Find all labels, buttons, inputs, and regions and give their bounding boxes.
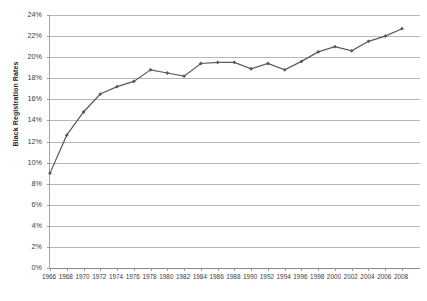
x-tickmark-1986: [218, 268, 219, 271]
y-tick-label-24: 24%: [8, 11, 42, 19]
x-tickmark-1992: [268, 268, 269, 271]
y-tick-label-18: 18%: [8, 74, 42, 82]
x-tickmark-1990: [251, 268, 252, 271]
data-point-2008: [400, 27, 404, 31]
x-tickmark-1976: [134, 268, 135, 271]
y-tick-label-6: 6%: [8, 201, 42, 209]
data-point-1980: [165, 71, 169, 75]
data-point-1966: [48, 171, 52, 175]
data-point-1992: [266, 62, 270, 66]
y-tick-label-14: 14%: [8, 116, 42, 124]
y-tick-label-20: 20%: [8, 53, 42, 61]
y-tick-label-22: 22%: [8, 32, 42, 40]
y-tick-label-0: 0%: [8, 264, 42, 272]
y-tick-label-12: 12%: [8, 138, 42, 146]
chart-container: Black Registration Rates 24%22%20%18%16%…: [0, 0, 427, 301]
x-tickmark-1984: [201, 268, 202, 271]
x-tickmark-1980: [167, 268, 168, 271]
x-tickmark-1974: [117, 268, 118, 271]
y-tick-label-10: 10%: [8, 159, 42, 167]
data-point-2006: [383, 34, 387, 38]
x-tickmark-2000: [335, 268, 336, 271]
x-tickmark-1970: [84, 268, 85, 271]
data-point-1988: [232, 61, 236, 65]
y-tick-label-16: 16%: [8, 95, 42, 103]
x-tick-label-2008: 2008: [388, 272, 414, 281]
y-tick-label-8: 8%: [8, 180, 42, 188]
x-tickmark-1972: [100, 268, 101, 271]
data-series-line: [50, 15, 420, 268]
y-tick-label-4: 4%: [8, 222, 42, 230]
x-tickmark-2006: [385, 268, 386, 271]
x-tickmark-1994: [285, 268, 286, 271]
x-tickmark-1988: [234, 268, 235, 271]
data-point-1986: [216, 61, 220, 65]
data-point-2000: [333, 45, 337, 49]
x-tickmark-1966: [50, 268, 51, 271]
x-tickmark-1996: [301, 268, 302, 271]
x-tickmark-2004: [368, 268, 369, 271]
x-tickmark-2002: [352, 268, 353, 271]
x-tickmark-1978: [151, 268, 152, 271]
x-tickmark-2008: [402, 268, 403, 271]
y-axis-tick-labels: 24%22%20%18%16%14%12%10%8%6%4%2%0%: [8, 0, 42, 301]
data-point-markers: [48, 27, 404, 175]
data-point-1974: [115, 85, 119, 89]
data-point-1990: [249, 67, 253, 71]
x-tickmark-1998: [318, 268, 319, 271]
x-tickmark-1968: [67, 268, 68, 271]
y-tick-label-2: 2%: [8, 243, 42, 251]
x-tickmark-1982: [184, 268, 185, 271]
plot-area: [49, 15, 420, 268]
x-axis-tick-labels: 1966196819701972197419761978198019821984…: [0, 272, 427, 290]
